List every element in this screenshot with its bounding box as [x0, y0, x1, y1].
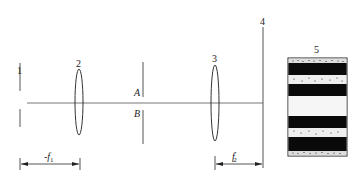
label-minus-f1: -f1: [44, 151, 54, 164]
fringe-pattern-5: [288, 58, 347, 156]
optical-diagram: 1 2 A B 3 4: [0, 0, 364, 179]
label-4: 4: [260, 16, 265, 27]
lens-2: [75, 69, 83, 135]
label-B: B: [134, 108, 140, 119]
label-f2-prime: f′2: [232, 150, 237, 164]
label-1: 1: [17, 65, 22, 76]
label-2: 2: [76, 58, 81, 69]
label-5: 5: [314, 44, 319, 55]
label-A: A: [133, 87, 141, 98]
label-3: 3: [212, 53, 217, 64]
dimension-f2-prime: [215, 156, 262, 170]
